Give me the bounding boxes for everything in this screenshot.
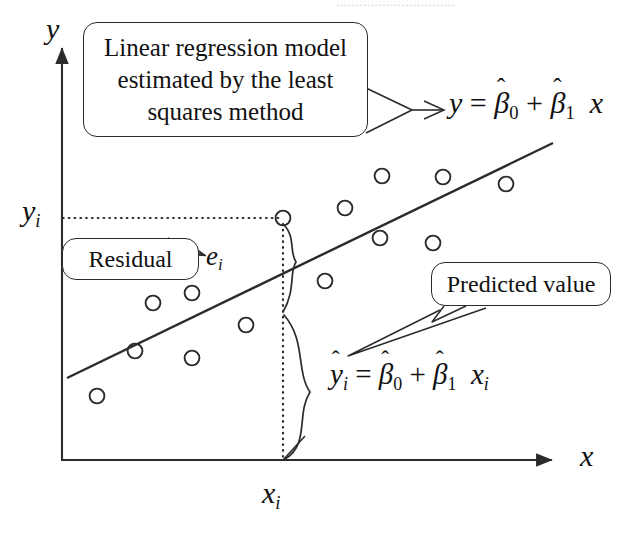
eq-model-beta1-sub: 1 [565, 102, 574, 123]
x-axis-label: x [580, 441, 593, 471]
yi-letter: y [22, 194, 35, 227]
eq-pred-beta1: ˆβ [433, 360, 447, 389]
scan-header-fragment: ............................... [336, 0, 626, 6]
eq-model-x: x [590, 86, 603, 119]
residual-symbol-letter: e [206, 241, 218, 271]
data-point [373, 231, 388, 246]
hat-accent-icon: ˆ [381, 348, 389, 372]
data-point [318, 274, 333, 289]
eq-pred-x: x [471, 358, 484, 390]
eq-model-equals: = [470, 86, 487, 119]
predicted-callout-leader [348, 306, 486, 356]
eq-model-beta0: ˆβ [494, 88, 509, 118]
eq-pred-beta0-sub: 0 [393, 374, 402, 394]
residual-symbol: ei [206, 243, 223, 274]
xi-tick-leader [283, 436, 305, 460]
data-point [499, 177, 514, 192]
y-axis-tick-label: yi [22, 196, 41, 231]
residual-symbol-sub: i [218, 255, 223, 274]
xi-letter: x [262, 476, 275, 509]
residual-brace [283, 224, 296, 312]
eq-model-lhs: y [449, 86, 462, 119]
eq-model-beta0-sub: 0 [509, 102, 518, 123]
callout-model-line-2: estimated by the least [104, 64, 347, 96]
yi-sub: i [35, 210, 40, 231]
x-axis-tick-label: xi [262, 478, 281, 513]
callout-predicted-label: Predicted value [447, 269, 596, 300]
data-point [185, 286, 200, 301]
callout-linear-regression-model: Linear regression model estimated by the… [83, 22, 368, 137]
eq-pred-lhs: ˆy [330, 360, 343, 389]
data-point [185, 351, 200, 366]
eq-model-beta1: ˆβ [550, 88, 565, 118]
callout-model-line-1: Linear regression model [104, 32, 347, 64]
data-point [146, 296, 161, 311]
eq-pred-plus: + [409, 358, 425, 390]
hat-accent-icon: ˆ [553, 76, 561, 101]
y-axis-label: y [46, 14, 59, 44]
model-callout-leader [366, 88, 444, 133]
data-point [338, 201, 353, 216]
regression-line-equation: y = ˆβ0 + ˆβ1 x [449, 88, 603, 123]
callout-predicted-value: Predicted value [431, 262, 611, 306]
eq-pred-x-sub: i [484, 374, 489, 394]
callout-residual: Residual [62, 238, 199, 280]
callout-model-line-3: squares method [104, 96, 347, 128]
predicted-value-equation: ˆyi = ˆβ0 + ˆβ1 xi [330, 360, 489, 393]
data-point [426, 236, 441, 251]
eq-pred-equals: = [355, 358, 371, 390]
data-point [239, 318, 254, 333]
data-point [90, 389, 105, 404]
figure-canvas: ............................... [0, 0, 638, 539]
hat-accent-icon: ˆ [436, 348, 444, 372]
xi-sub: i [275, 492, 280, 513]
eq-model-plus: + [526, 86, 543, 119]
callout-residual-label: Residual [89, 244, 173, 275]
eq-pred-beta0: ˆβ [379, 360, 393, 389]
predicted-brace [284, 315, 310, 459]
data-point [375, 169, 390, 184]
data-point [436, 170, 451, 185]
hat-accent-icon: ˆ [497, 76, 505, 101]
hat-accent-icon: ˆ [332, 348, 340, 372]
